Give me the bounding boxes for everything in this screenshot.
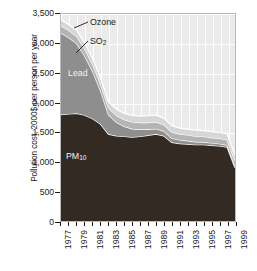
- y-axis-tick: [55, 192, 60, 193]
- x-axis-tick: [92, 222, 93, 226]
- pm10-series-label: PM10: [66, 151, 87, 161]
- lead-series-label: Lead: [68, 68, 88, 78]
- y-axis-tick-label: 1,500: [32, 127, 54, 137]
- y-axis-tick: [55, 13, 60, 14]
- x-axis-tick: [76, 222, 77, 226]
- y-axis-tick-label: 500: [40, 187, 54, 197]
- x-axis-tick: [212, 222, 213, 226]
- y-axis-tick-label: 1,000: [32, 157, 54, 167]
- stacked-area-series: [61, 14, 235, 221]
- y-axis-tick: [55, 162, 60, 163]
- x-axis-tick-label: 1985: [127, 230, 137, 249]
- y-axis-tick: [55, 132, 60, 133]
- pm10-label-text: PM: [66, 151, 79, 161]
- x-axis-tick: [204, 222, 205, 226]
- x-axis-tick: [148, 222, 149, 226]
- x-axis-tick: [196, 222, 197, 226]
- x-axis-tick-label: 1997: [223, 230, 233, 249]
- x-axis-tick-label: 1987: [143, 230, 153, 249]
- so2-label-subscript: 2: [103, 39, 107, 46]
- x-axis-tick: [156, 222, 157, 226]
- y-axis-tick-label: 2,500: [32, 68, 54, 78]
- x-axis-tick: [100, 222, 101, 226]
- x-axis-tick: [180, 222, 181, 226]
- x-axis-tick: [236, 222, 237, 226]
- pm10-label-subscript: 10: [79, 154, 86, 161]
- x-axis-tick-label: 1991: [175, 230, 185, 249]
- x-axis-tick-label: 1981: [95, 230, 105, 249]
- lead-label-text: Lead: [68, 68, 88, 78]
- x-axis-tick: [68, 222, 69, 226]
- x-axis-tick-label: 1983: [111, 230, 121, 249]
- x-axis-tick: [108, 222, 109, 226]
- x-axis-tick-label: 1979: [79, 230, 89, 249]
- ozone-series-label: Ozone: [90, 17, 116, 27]
- x-axis-tick: [172, 222, 173, 226]
- x-axis-tick-label: 1989: [159, 230, 169, 249]
- x-axis-tick: [124, 222, 125, 226]
- y-axis-tick: [55, 103, 60, 104]
- y-axis-tick: [55, 73, 60, 74]
- ozone-label-text: Ozone: [90, 17, 116, 27]
- y-axis-tick-label: 3,000: [32, 38, 54, 48]
- y-axis-tick-label: 0: [49, 217, 54, 227]
- x-axis-tick-label: 1993: [191, 230, 201, 249]
- x-axis-tick-label: 1977: [63, 230, 73, 249]
- x-axis-tick: [188, 222, 189, 226]
- x-axis-tick-label: 1999: [239, 230, 249, 249]
- plot-area: [60, 13, 236, 222]
- x-axis-tick: [140, 222, 141, 226]
- y-axis-tick-label: 2,000: [32, 98, 54, 108]
- x-axis-tick: [116, 222, 117, 226]
- x-axis-tick: [60, 222, 61, 226]
- x-axis-tick: [84, 222, 85, 226]
- so2-label-text: SO: [90, 36, 103, 46]
- so2-series-label: SO2: [90, 36, 106, 46]
- x-axis-tick: [132, 222, 133, 226]
- y-axis-tick-label: 3,500: [32, 8, 54, 18]
- x-axis-tick: [220, 222, 221, 226]
- x-axis-tick: [164, 222, 165, 226]
- area-svg: [61, 14, 235, 221]
- y-axis-tick: [55, 43, 60, 44]
- pollution-cost-stacked-area-chart: Pollution cost, 2000$ per person per yea…: [0, 0, 257, 271]
- x-axis-tick-label: 1995: [207, 230, 217, 249]
- x-axis-tick: [228, 222, 229, 226]
